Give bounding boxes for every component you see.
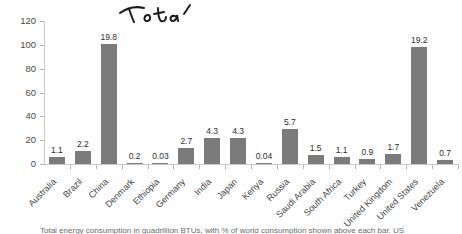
x-tick-mark: [122, 165, 123, 169]
y-tick-mark: [40, 140, 44, 141]
bar: [308, 155, 324, 164]
bar-value-label: 5.7: [275, 118, 305, 127]
y-tick-mark: [40, 164, 44, 165]
x-tick-mark: [355, 165, 356, 169]
bar: [256, 163, 272, 164]
chart-caption: Total energy consumption in quadrillion …: [40, 225, 460, 234]
bar-chart: 020406080100120 AustraliaBrazilChinaDenm…: [0, 0, 462, 234]
y-tick-mark: [40, 116, 44, 117]
y-tick-label: 80: [2, 64, 36, 74]
x-tick-mark: [173, 165, 174, 169]
bar: [75, 151, 91, 164]
bar-value-label: 2.7: [171, 137, 201, 146]
bar: [101, 44, 117, 164]
bar-value-label: 1.7: [378, 143, 408, 152]
bar-value-label: 19.8: [94, 33, 124, 42]
bar: [230, 138, 246, 164]
bar-value-label: 19.2: [404, 36, 434, 45]
bar-value-label: 4.3: [223, 127, 253, 136]
bar: [334, 157, 350, 164]
y-tick-label: 120: [2, 16, 36, 26]
y-tick-mark: [40, 45, 44, 46]
y-tick-label: 20: [2, 135, 36, 145]
y-tick-mark: [40, 93, 44, 94]
bar-value-label: 2.2: [68, 140, 98, 149]
y-tick-mark: [40, 69, 44, 70]
x-tick-mark: [225, 165, 226, 169]
bar-value-label: 0.03: [145, 152, 175, 161]
bar: [411, 47, 427, 164]
x-tick-mark: [329, 165, 330, 169]
bar-value-label: 0.7: [430, 149, 460, 158]
x-tick-mark: [251, 165, 252, 169]
x-tick-mark: [380, 165, 381, 169]
y-tick-mark: [40, 21, 44, 22]
x-tick-mark: [70, 165, 71, 169]
bar: [204, 138, 220, 164]
x-tick-mark: [432, 165, 433, 169]
bar: [152, 163, 168, 164]
bar-value-label: 0.04: [249, 152, 279, 161]
bar: [282, 129, 298, 164]
y-tick-label: 0: [2, 159, 36, 169]
bar: [49, 157, 65, 164]
x-tick-mark: [277, 165, 278, 169]
y-tick-label: 40: [2, 111, 36, 121]
bar: [127, 163, 143, 164]
y-tick-label: 100: [2, 40, 36, 50]
x-tick-mark: [148, 165, 149, 169]
bar: [359, 159, 375, 164]
x-tick-mark: [458, 165, 459, 169]
x-tick-mark: [96, 165, 97, 169]
y-tick-label: 60: [2, 88, 36, 98]
x-tick-mark: [406, 165, 407, 169]
bar: [437, 160, 453, 164]
bar: [178, 148, 194, 164]
x-tick-mark: [199, 165, 200, 169]
x-tick-mark: [303, 165, 304, 169]
bar: [385, 154, 401, 164]
